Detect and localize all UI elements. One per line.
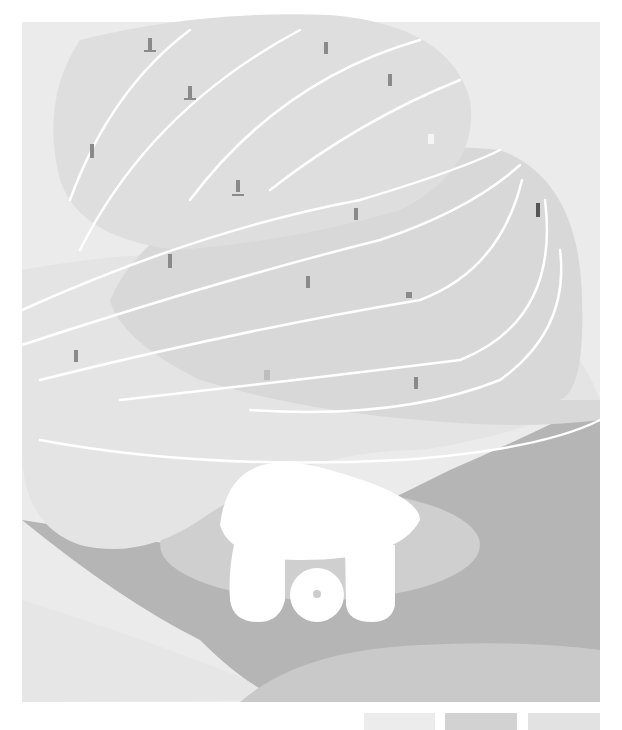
skier-figure xyxy=(324,42,328,54)
skier-figure xyxy=(414,377,418,389)
swatch-pale xyxy=(528,713,600,730)
swatch-light xyxy=(364,713,435,730)
letter-t xyxy=(345,545,395,622)
skier-figure xyxy=(388,74,392,86)
skier-figure xyxy=(406,292,412,298)
letter-o-dot xyxy=(313,590,321,598)
skier-figure xyxy=(306,276,310,288)
letter-s xyxy=(230,536,285,622)
skier-figure xyxy=(74,350,78,362)
skier-figure xyxy=(264,370,270,380)
skier-figure xyxy=(428,134,434,144)
skier-figure xyxy=(536,203,540,217)
swatch-mid xyxy=(445,713,517,730)
skier-figure xyxy=(168,254,172,268)
ski-mountain-illustration xyxy=(0,0,622,730)
skier-figure xyxy=(354,208,358,220)
skier-figure xyxy=(90,144,94,158)
